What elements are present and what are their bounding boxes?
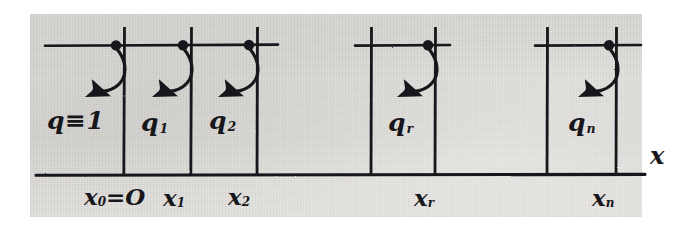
node-label-x0: x0=O — [84, 185, 145, 209]
rotation-arrow-qn — [587, 49, 618, 91]
element-label-q0: q≡1 — [47, 108, 104, 133]
element-boundary-lines — [124, 27, 617, 175]
element-label-qn-base: q — [568, 108, 586, 137]
node-label-x1: x1 — [163, 186, 185, 210]
element-label-qr-base: q — [388, 108, 406, 137]
node-label-xn-base: x — [592, 184, 606, 211]
rotation-arrow-q1 — [161, 49, 192, 91]
rotation-arrow-qr — [406, 49, 437, 91]
element-label-q1: q1 — [141, 110, 169, 135]
node-label-x2: x2 — [228, 185, 250, 209]
x-axis-line — [36, 174, 645, 175]
figure-root: q≡1 q1 q2 qr qn x0=O x1 x2 xr xn x — [0, 0, 698, 232]
rotation-arrow-q2 — [227, 49, 258, 91]
x-axis-label: x — [650, 144, 664, 168]
element-label-q1-base: q — [141, 108, 159, 137]
node-label-x0-base: x — [84, 183, 98, 210]
node-label-x0-suffix: =O — [106, 183, 145, 210]
element-label-q1-sub: 1 — [159, 121, 168, 136]
rotation-arrow-q0 — [94, 49, 125, 91]
element-label-qr: qr — [388, 110, 414, 135]
element-label-qn-sub: n — [586, 121, 596, 136]
node-label-xn: xn — [592, 186, 614, 210]
nodal-reference-lines — [45, 45, 641, 46]
element-label-qn: qn — [568, 110, 596, 135]
element-label-q2: q2 — [209, 108, 237, 133]
node-label-x1-base: x — [163, 184, 177, 211]
node-label-x2-sub: 2 — [242, 195, 250, 209]
element-label-qr-sub: r — [406, 121, 413, 136]
node-label-x1-sub: 1 — [177, 196, 185, 210]
node-label-x2-base: x — [228, 183, 242, 210]
element-label-q2-base: q — [209, 106, 227, 135]
element-label-q0-text: q≡1 — [47, 106, 104, 135]
node-label-x0-sub: 0 — [98, 195, 106, 209]
element-label-q2-sub: 2 — [227, 119, 236, 134]
node-label-xr: xr — [414, 186, 434, 210]
node-label-xr-sub: r — [428, 196, 434, 210]
node-label-xn-sub: n — [606, 196, 615, 210]
x-axis-label-text: x — [650, 141, 664, 170]
node-label-xr-base: x — [414, 184, 428, 211]
